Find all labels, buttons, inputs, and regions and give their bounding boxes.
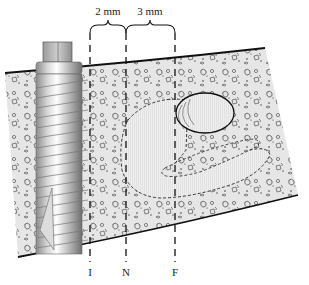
marker-label-I: I (88, 266, 92, 278)
bone-screw-diagram: 2 mm 3 mm I N F (0, 0, 309, 285)
marker-label-N: N (122, 266, 130, 278)
screw-hex-head (43, 42, 72, 62)
measurement-label-2mm: 2 mm (95, 5, 121, 17)
screw (36, 42, 88, 254)
marker-label-F: F (172, 266, 178, 278)
brace-3mm (126, 20, 175, 33)
brace-2mm (90, 20, 126, 33)
measurement-label-3mm: 3 mm (137, 5, 163, 17)
screw-collar (36, 62, 82, 74)
measurement-braces (90, 20, 175, 33)
